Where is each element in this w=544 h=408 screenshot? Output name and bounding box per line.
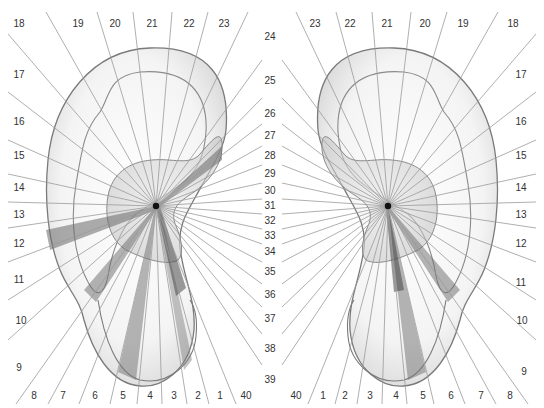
right-zone-label: 4 [393, 391, 399, 401]
left-zone-label: 13 [13, 210, 24, 220]
left-zone-label: 5 [120, 391, 126, 401]
center-zone-label: 27 [264, 131, 275, 141]
right-zone-label: 13 [515, 210, 526, 220]
left-zone-label: 14 [13, 183, 24, 193]
left-zone-label: 2 [195, 391, 201, 401]
left-ear [8, 12, 262, 404]
left-zone-label: 23 [218, 19, 229, 29]
left-center-point [153, 203, 159, 209]
center-zone-label: 33 [264, 231, 275, 241]
left-zone-label: 21 [146, 19, 157, 29]
left-zone-label: 17 [13, 70, 24, 80]
center-zone-label: 25 [264, 76, 275, 86]
center-zone-label: 37 [264, 314, 275, 324]
left-zone-label: 10 [15, 316, 26, 326]
left-zone-label: 20 [109, 19, 120, 29]
right-zone-label: 16 [515, 117, 526, 127]
right-zone-label: 2 [342, 391, 348, 401]
left-zone-label: 9 [16, 363, 22, 373]
center-zone-label: 29 [264, 169, 275, 179]
left-zone-label: 6 [92, 391, 98, 401]
right-zone-label: 15 [515, 151, 526, 161]
left-zone-label: 12 [13, 239, 24, 249]
right-zone-label: 17 [515, 70, 526, 80]
center-zone-label: 36 [264, 290, 275, 300]
right-zone-label: 23 [309, 19, 320, 29]
right-zone-label: 12 [515, 239, 526, 249]
left-zone-label: 11 [14, 275, 24, 285]
right-ear [282, 12, 536, 404]
left-zone-label: 4 [147, 391, 153, 401]
right-zone-label: 22 [344, 19, 355, 29]
right-zone-label: 8 [507, 391, 513, 401]
right-zone-label: 5 [420, 391, 426, 401]
center-zone-label: 32 [264, 216, 275, 226]
center-zone-label: 28 [264, 151, 275, 161]
right-zone-label: 3 [367, 391, 373, 401]
center-zone-label: 38 [264, 344, 275, 354]
right-zone-label: 6 [448, 391, 454, 401]
right-center-point [385, 203, 391, 209]
left-zone-label: 19 [72, 19, 83, 29]
right-zone-label: 9 [521, 367, 527, 377]
right-zone-label: 21 [381, 19, 392, 29]
left-zone-label: 3 [171, 391, 177, 401]
left-zone-label: 1 [217, 391, 223, 401]
left-zone-label: 7 [60, 391, 66, 401]
left-zone-label: 18 [13, 19, 24, 29]
center-zone-label: 26 [264, 109, 275, 119]
left-zone-label: 15 [13, 151, 24, 161]
right-zone-label: 14 [515, 183, 526, 193]
center-zone-label: 35 [264, 267, 275, 277]
right-zone-label: 7 [478, 391, 484, 401]
center-zone-label: 24 [264, 32, 275, 42]
left-zone-label: 8 [31, 391, 37, 401]
right-zone-label: 1 [320, 391, 326, 401]
right-zone-label: 20 [419, 19, 430, 29]
center-zone-label: 34 [264, 247, 275, 257]
center-zone-label: 31 [264, 201, 275, 211]
right-zone-label: 11 [516, 278, 526, 288]
right-zone-label: 10 [516, 316, 527, 326]
center-zone-label: 30 [264, 186, 275, 196]
left-zone-label: 22 [183, 19, 194, 29]
auricular-chart: 1819202122231716151413121110987654321402… [0, 0, 544, 408]
left-zone-label: 40 [240, 391, 251, 401]
center-zone-label: 39 [264, 375, 275, 385]
right-zone-label: 40 [290, 391, 301, 401]
right-zone-label: 19 [457, 19, 468, 29]
left-zone-label: 16 [13, 117, 24, 127]
right-zone-label: 18 [507, 19, 518, 29]
